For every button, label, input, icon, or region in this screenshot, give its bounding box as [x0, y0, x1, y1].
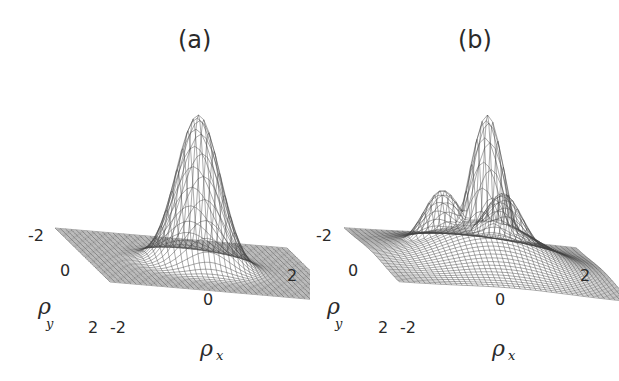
y-tick-neg2-b: -2 — [316, 228, 332, 244]
x-axis-label-b: ρ — [492, 338, 505, 360]
x-tick-2-b: 2 — [580, 268, 590, 284]
x-axis-label-a: ρ — [200, 338, 213, 360]
x-axis-subscript-b: x — [508, 348, 515, 363]
x-tick-neg2-a: -2 — [110, 320, 126, 336]
y-tick-2-b: 2 — [378, 320, 388, 336]
y-axis-label-a: ρ — [38, 296, 51, 318]
x-axis-subscript-a: x — [216, 348, 223, 363]
panel-a: (a) -2 0 2 -2 0 2 ρ y ρ x — [0, 0, 310, 381]
x-tick-0-b: 0 — [495, 292, 505, 308]
surface-plot-b — [310, 0, 619, 381]
y-axis-subscript-a: y — [46, 316, 53, 331]
y-tick-2-a: 2 — [88, 320, 98, 336]
x-tick-neg2-b: -2 — [400, 320, 416, 336]
panel-title-a: (a) — [178, 28, 211, 52]
panel-title-b: (b) — [458, 28, 492, 52]
panel-b: (b) -2 0 2 -2 0 2 ρ y ρ x — [310, 0, 619, 381]
y-tick-0-a: 0 — [60, 263, 70, 279]
x-tick-0-a: 0 — [203, 292, 213, 308]
y-axis-subscript-b: y — [335, 316, 342, 331]
x-tick-2-a: 2 — [287, 268, 297, 284]
y-axis-label-b: ρ — [327, 296, 340, 318]
y-tick-neg2-a: -2 — [28, 228, 44, 244]
y-tick-0-b: 0 — [348, 263, 358, 279]
